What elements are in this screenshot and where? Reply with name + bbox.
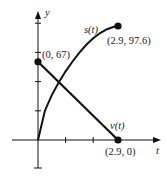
point-v-end (114, 136, 121, 143)
x-axis-label: t (156, 145, 160, 156)
s-curve-label: s(t) (84, 24, 99, 36)
y-axis-arrow-icon (35, 11, 41, 19)
s-curve (38, 26, 118, 140)
point-start-label: (0, 67) (42, 49, 70, 61)
point-s-end-label: (2.9, 97.6) (107, 35, 151, 47)
point-start (34, 58, 41, 65)
chart: y t s(t) v(t) (0, 67) (2.9, 97.6) (2.9, … (0, 0, 167, 176)
v-line-label: v(t) (110, 120, 125, 132)
axis-ticks (35, 23, 93, 143)
x-axis-arrow-icon (153, 137, 161, 143)
point-s-end (114, 22, 121, 29)
y-axis-label: y (44, 7, 50, 18)
point-v-end-label: (2.9, 0) (105, 146, 136, 158)
